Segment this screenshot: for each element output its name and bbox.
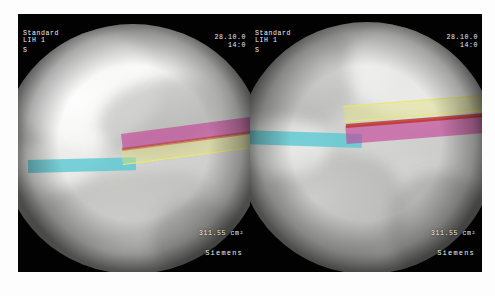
osd-subline-right: LIH 1: [255, 37, 278, 45]
fluoroscopy-viewer: Standard LIH 1 S 28.10.0 14:0 311.55 cm²…: [0, 0, 495, 296]
osd-time-left: 14:0: [228, 42, 246, 50]
osd-subline-left: LIH 1: [23, 37, 46, 45]
fluoroscopy-panel-left[interactable]: Standard LIH 1 S 28.10.0 14:0 311.55 cm²…: [18, 14, 250, 272]
osd-date-right: 28.10.0: [446, 34, 478, 42]
osd-dose-right: 311.55 cm²: [431, 230, 476, 238]
fluoroscopy-panel-right[interactable]: Standard LIH 1 S 28.10.0 14:0 311.55 cm²…: [250, 14, 482, 272]
osd-extraline-right: S: [255, 47, 260, 55]
osd-vendor-left: Siemens: [205, 250, 243, 258]
osd-vendor-right: Siemens: [437, 250, 475, 258]
osd-date-left: 28.10.0: [214, 34, 246, 42]
osd-time-right: 14:0: [460, 42, 478, 50]
osd-extraline-left: S: [23, 47, 28, 55]
osd-dose-left: 311.55 cm²: [199, 230, 244, 238]
